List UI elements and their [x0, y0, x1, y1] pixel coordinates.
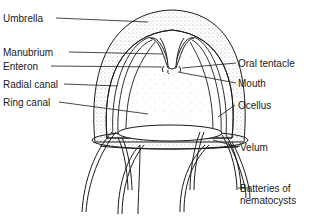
umbrella-bell — [94, 10, 245, 142]
label-mouth: Mouth — [238, 78, 266, 89]
label-ring-canal: Ring canal — [3, 97, 50, 108]
label-velum: Velum — [240, 142, 268, 153]
label-batteries-line2: nematocysts — [240, 195, 296, 206]
label-oral-tentacle: Oral tentacle — [238, 58, 295, 69]
label-manubrium: Manubrium — [3, 47, 53, 58]
jellyfish-diagram: Umbrella Manubrium Enteron Radial canal … — [0, 0, 309, 221]
label-radial-canal: Radial canal — [3, 79, 58, 90]
label-umbrella: Umbrella — [3, 13, 43, 24]
label-ocellus: Ocellus — [238, 100, 271, 111]
label-enteron: Enteron — [3, 61, 38, 72]
label-batteries-line1: Batteries of — [240, 183, 291, 194]
